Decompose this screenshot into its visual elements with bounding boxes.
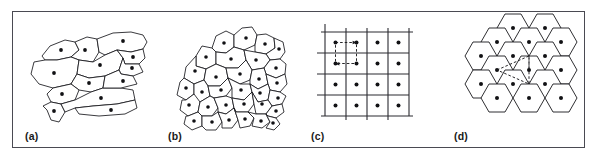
- tessellation-cells-a: [31, 32, 147, 122]
- figure-root: (a): [0, 0, 598, 161]
- panel-b: (b): [156, 12, 299, 147]
- panel-d-label: (d): [454, 131, 468, 142]
- panel-a-diagram: [13, 12, 156, 147]
- panel-c-label: (c): [311, 131, 324, 142]
- panel-c: (c): [299, 12, 442, 147]
- tessellation-cells-b: [177, 27, 287, 130]
- panel-b-label: (b): [168, 131, 182, 142]
- panel-a-label: (a): [25, 131, 38, 142]
- panel-d-diagram: [442, 12, 586, 147]
- panel-d: (d): [442, 12, 585, 147]
- panel-b-diagram: [156, 12, 299, 147]
- panel-a: (a): [13, 12, 156, 147]
- figure-frame: (a): [12, 11, 585, 148]
- panel-c-diagram: [299, 12, 442, 147]
